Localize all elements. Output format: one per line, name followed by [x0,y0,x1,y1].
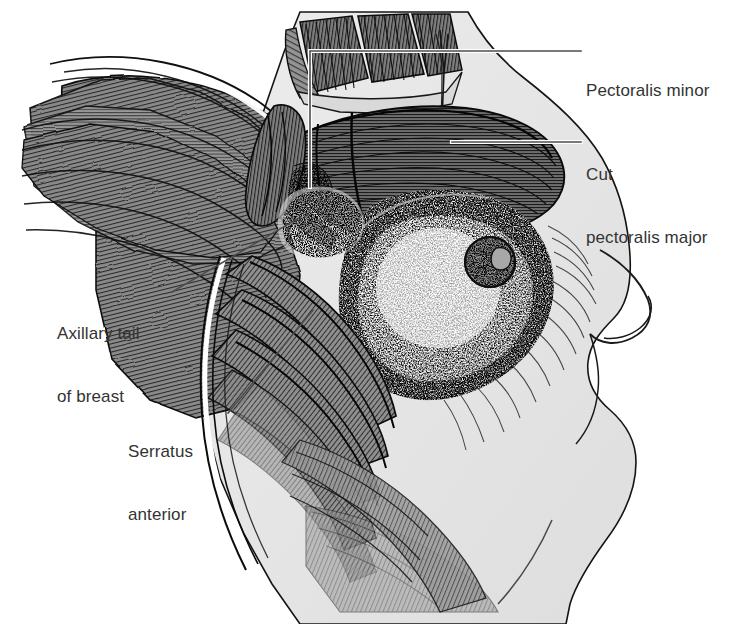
label-serratus-anterior: Serratus anterior [128,399,193,567]
label-axillary-tail-line1: Axillary tail [57,323,140,344]
nipple-areola [465,237,515,287]
label-serratus-anterior-line1: Serratus [128,441,193,462]
label-pectoralis-minor-line1: Pectoralis minor [586,80,709,101]
label-cut-pectoralis-major-line2: pectoralis major [586,227,708,248]
anatomical-figure: Pectoralis minor Cut pectoralis major Ax… [0,0,740,624]
label-cut-pectoralis-major: Cut pectoralis major [586,122,708,290]
label-cut-pectoralis-major-line1: Cut [586,164,708,185]
label-serratus-anterior-line2: anterior [128,504,193,525]
